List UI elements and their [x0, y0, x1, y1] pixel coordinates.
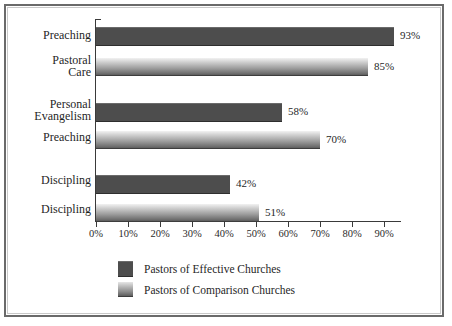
y-axis-label-preaching-effective: Preaching: [0, 29, 91, 42]
y-axis-label-evangelism: Evangelism: [0, 110, 91, 123]
bar-value-58: 58%: [288, 105, 308, 117]
x-tick-label-90: 90%: [374, 228, 393, 239]
x-tick-0: [96, 221, 97, 227]
x-tick-50: [256, 221, 257, 227]
bar-discipling-comparison: [96, 204, 259, 222]
y-axis-label-discipling-effective: Discipling: [0, 174, 91, 187]
bar-discipling-effective: [96, 175, 230, 194]
legend-label-comparison: Pastors of Comparison Churches: [144, 284, 295, 296]
x-tick-70: [320, 221, 321, 227]
x-tick-label-30: 30%: [182, 228, 201, 239]
x-tick-label-50: 50%: [246, 228, 265, 239]
bar-preaching-comparison: [96, 131, 320, 149]
bar-pastoral-care-comparison: [96, 58, 368, 76]
x-tick-label-80: 80%: [342, 228, 361, 239]
chart-figure: Preaching Pastoral Care Personal Evangel…: [0, 0, 452, 326]
bar-value-93: 93%: [400, 29, 420, 41]
x-tick-80: [352, 221, 353, 227]
chart-legend: Pastors of Effective Churches Pastors of…: [118, 258, 295, 300]
legend-label-effective: Pastors of Effective Churches: [144, 263, 281, 275]
x-tick-20: [160, 221, 161, 227]
bar-personal-evangelism-effective: [96, 103, 282, 122]
bar-value-51: 51%: [265, 206, 285, 218]
bar-value-42: 42%: [236, 177, 256, 189]
x-tick-label-70: 70%: [310, 228, 329, 239]
legend-swatch-comparison-icon: [118, 282, 133, 297]
x-tick-label-10: 10%: [118, 228, 137, 239]
y-axis-top-cap: [95, 19, 101, 20]
legend-item-effective: Pastors of Effective Churches: [118, 258, 295, 279]
bar-value-85: 85%: [374, 60, 394, 72]
x-tick-90: [384, 221, 385, 227]
x-tick-label-20: 20%: [150, 228, 169, 239]
legend-swatch-effective-icon: [118, 261, 133, 277]
legend-item-comparison: Pastors of Comparison Churches: [118, 279, 295, 300]
y-axis-label-preaching-comparison: Preaching: [0, 131, 91, 144]
x-tick-40: [224, 221, 225, 227]
x-tick-60: [288, 221, 289, 227]
y-axis-label-group: Preaching Pastoral Care Personal Evangel…: [0, 0, 91, 240]
y-axis-label-discipling-comparison: Discipling: [0, 203, 91, 216]
x-tick-label-60: 60%: [278, 228, 297, 239]
y-axis-label-care: Care: [0, 66, 91, 79]
bar-preaching-effective: [96, 27, 394, 46]
x-tick-30: [192, 221, 193, 227]
x-tick-10: [128, 221, 129, 227]
bar-value-70: 70%: [326, 133, 346, 145]
x-tick-label-40: 40%: [214, 228, 233, 239]
x-tick-label-0: 0%: [89, 228, 103, 239]
